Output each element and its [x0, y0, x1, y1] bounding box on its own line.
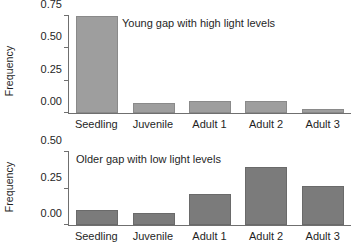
bar — [76, 210, 118, 225]
bar-slot — [295, 16, 351, 113]
chart-panel-older-gap: Frequency Older gap with low light level… — [0, 140, 353, 249]
x-axis-tick-label: Adult 1 — [181, 118, 238, 130]
y-axis-tick — [64, 188, 69, 189]
x-axis-tick-label: Seedling — [68, 118, 125, 130]
y-axis-tick-label: 0.75 — [41, 0, 62, 10]
y-axis-tick-label: 0.50 — [41, 134, 62, 146]
bar — [302, 109, 344, 113]
y-axis-tick — [64, 47, 69, 48]
x-axis-tick-label: Adult 2 — [238, 118, 295, 130]
x-axis-tick-label: Seedling — [68, 230, 125, 242]
bar-group-older-gap — [69, 152, 351, 225]
y-axis-tick — [64, 224, 69, 225]
bar-slot — [69, 16, 125, 113]
bar — [133, 213, 175, 225]
bar — [245, 167, 287, 225]
frequency-by-life-stage-figure: Frequency Young gap with high light leve… — [0, 0, 353, 249]
bar-slot — [125, 152, 181, 225]
y-axis-tick — [64, 15, 69, 16]
plot-area-older-gap: 0.000.250.50 — [68, 152, 351, 226]
x-axis-tick-label: Adult 1 — [181, 230, 238, 242]
bar-slot — [238, 16, 294, 113]
x-axis-tick-label: Juvenile — [125, 230, 182, 242]
bar-slot — [125, 16, 181, 113]
x-axis-tick-label: Adult 3 — [294, 118, 351, 130]
bar — [76, 16, 118, 113]
bar-slot — [182, 152, 238, 225]
bar — [133, 103, 175, 113]
bar-slot — [69, 152, 125, 225]
y-axis-tick-label: 0.00 — [41, 95, 62, 107]
y-axis-tick-label: 0.25 — [41, 171, 62, 183]
y-axis-tick-label: 0.00 — [41, 207, 62, 219]
y-axis-tick — [64, 80, 69, 81]
bar-slot — [238, 152, 294, 225]
x-axis-labels-young-gap: SeedlingJuvenileAdult 1Adult 2Adult 3 — [68, 118, 351, 130]
bar — [302, 186, 344, 225]
x-axis-labels-older-gap: SeedlingJuvenileAdult 1Adult 2Adult 3 — [68, 230, 351, 242]
y-axis-tick — [64, 151, 69, 152]
x-axis-tick-label: Adult 3 — [294, 230, 351, 242]
y-axis-tick — [64, 112, 69, 113]
x-axis-tick-label: Adult 2 — [238, 230, 295, 242]
y-axis-label-top: Frequency — [0, 28, 17, 114]
bar-group-young-gap — [69, 16, 351, 113]
bar — [189, 194, 231, 225]
plot-area-young-gap: 0.000.250.500.75 — [68, 16, 351, 114]
bar-slot — [182, 16, 238, 113]
x-axis-tick-label: Juvenile — [125, 118, 182, 130]
y-axis-tick-label: 0.50 — [41, 30, 62, 42]
y-axis-tick-label: 0.25 — [41, 63, 62, 75]
chart-panel-young-gap: Frequency Young gap with high light leve… — [0, 4, 353, 136]
y-axis-label-bottom: Frequency — [0, 148, 17, 226]
bar — [245, 101, 287, 113]
bar-slot — [295, 152, 351, 225]
bar — [189, 101, 231, 113]
